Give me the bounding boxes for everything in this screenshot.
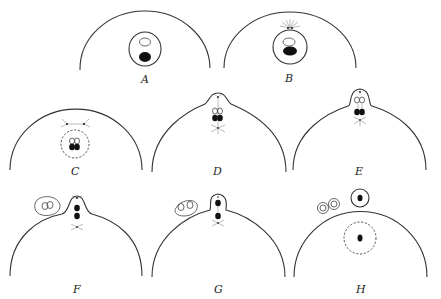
nucleolus bbox=[140, 38, 151, 46]
panel-label-e: E bbox=[354, 165, 363, 178]
spindle-asters bbox=[61, 119, 90, 127]
meiosis-figure: A B bbox=[0, 0, 441, 299]
nuclear-membrane-dissolving bbox=[61, 130, 89, 158]
chromatin-mass bbox=[283, 47, 297, 56]
egg-cell-outline bbox=[152, 194, 285, 277]
chromatin-mass bbox=[139, 52, 151, 62]
aster-centrosome bbox=[280, 19, 300, 29]
panel-d: D bbox=[152, 93, 286, 178]
polar-body-1a bbox=[318, 203, 329, 214]
panel-g: G bbox=[152, 194, 285, 296]
panel-label-f: F bbox=[72, 283, 81, 296]
nucleolus bbox=[283, 38, 295, 46]
panel-a: A bbox=[80, 11, 210, 86]
panel-e: E bbox=[293, 89, 426, 178]
panel-f: F bbox=[10, 196, 142, 296]
chromosome bbox=[74, 205, 80, 212]
panel-label-c: C bbox=[71, 165, 80, 178]
egg-cell-outline bbox=[10, 109, 142, 170]
chromosome bbox=[212, 115, 218, 122]
egg-cell-outline bbox=[294, 212, 427, 277]
panel-h: H bbox=[294, 189, 427, 296]
chromosome bbox=[359, 109, 365, 116]
panel-label-g: G bbox=[214, 283, 223, 296]
panel-c: C bbox=[10, 109, 142, 178]
aster-lower bbox=[354, 117, 366, 126]
chromosome bbox=[354, 109, 360, 116]
chromosome bbox=[215, 213, 221, 220]
polar-body-1b bbox=[329, 199, 340, 210]
chromosome bbox=[74, 213, 80, 220]
panel-label-b: B bbox=[284, 72, 293, 85]
panel-b: B bbox=[224, 12, 356, 85]
panel-label-d: D bbox=[212, 165, 222, 178]
aster-lower bbox=[212, 220, 224, 226]
panel-label-a: A bbox=[140, 73, 149, 86]
panel-label-h: H bbox=[355, 283, 366, 296]
aster-upper bbox=[214, 94, 222, 98]
chromosome bbox=[215, 200, 221, 207]
chromosome bbox=[69, 144, 75, 151]
aster-lower bbox=[71, 224, 83, 230]
egg-cell-outline bbox=[152, 93, 286, 172]
chromosome bbox=[217, 115, 223, 122]
chromosome bbox=[74, 144, 80, 151]
